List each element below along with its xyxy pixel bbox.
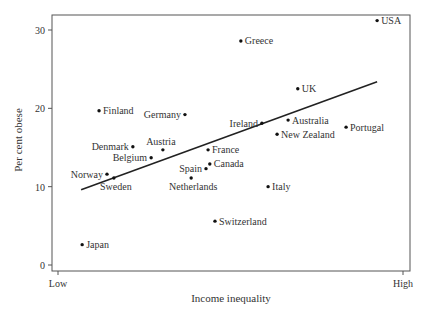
point-label: Germany <box>144 109 181 120</box>
point-label: Canada <box>214 158 245 169</box>
point-marker <box>208 162 211 165</box>
point-marker <box>296 87 299 90</box>
point-marker <box>183 113 186 116</box>
point-label: UK <box>302 83 317 94</box>
point-label: France <box>212 144 240 155</box>
scatter-chart: 0102030 LowHigh USAGreeceUKFinlandGerman… <box>0 0 428 318</box>
point-label: Greece <box>245 35 274 46</box>
point-label: Sweden <box>100 181 132 192</box>
data-point-greece: Greece <box>239 35 274 46</box>
point-marker <box>239 39 242 42</box>
data-point-new-zealand: New Zealand <box>275 129 334 140</box>
y-axis-title: Per cent obese <box>12 108 24 172</box>
point-marker <box>149 156 152 159</box>
point-marker <box>112 176 115 179</box>
data-point-usa: USA <box>375 15 401 26</box>
data-point-netherlands: Netherlands <box>169 176 217 192</box>
data-point-germany: Germany <box>144 109 187 120</box>
point-label: Japan <box>86 239 109 250</box>
point-marker <box>80 243 83 246</box>
point-label: USA <box>381 15 402 26</box>
point-label: Portugal <box>350 122 384 133</box>
y-tick-label: 0 <box>40 260 45 271</box>
point-marker <box>286 118 289 121</box>
point-label: Italy <box>272 181 290 192</box>
point-marker <box>213 219 216 222</box>
point-marker <box>344 125 347 128</box>
data-point-italy: Italy <box>266 181 290 192</box>
data-point-canada: Canada <box>208 158 244 169</box>
x-axis: LowHigh <box>49 271 413 289</box>
y-tick-label: 10 <box>35 182 45 193</box>
point-label: Ireland <box>230 118 258 129</box>
data-point-finland: Finland <box>97 105 133 116</box>
x-axis-title: Income inequality <box>191 292 271 304</box>
x-tick-label: High <box>393 278 413 289</box>
point-marker <box>206 148 209 151</box>
point-marker <box>189 176 192 179</box>
y-tick-label: 20 <box>35 103 45 114</box>
point-marker <box>266 185 269 188</box>
point-marker <box>375 19 378 22</box>
data-point-sweden: Sweden <box>100 176 132 192</box>
point-label: Denmark <box>92 141 129 152</box>
point-label: Spain <box>179 163 202 174</box>
point-marker <box>161 148 164 151</box>
point-label: Australia <box>292 115 329 126</box>
point-marker <box>275 132 278 135</box>
point-label: Netherlands <box>169 181 217 192</box>
point-label: Finland <box>103 105 134 116</box>
point-marker <box>105 172 108 175</box>
point-label: Austria <box>146 136 176 147</box>
data-point-uk: UK <box>296 83 317 94</box>
point-label: Belgium <box>113 152 148 163</box>
data-point-ireland: Ireland <box>230 118 264 129</box>
data-point-denmark: Denmark <box>92 141 135 152</box>
point-marker <box>260 122 263 125</box>
data-point-japan: Japan <box>80 239 108 250</box>
data-point-spain: Spain <box>179 163 207 174</box>
x-tick-label: Low <box>49 278 68 289</box>
data-point-france: France <box>206 144 239 155</box>
y-tick-label: 30 <box>35 25 45 36</box>
y-axis: 0102030 <box>35 25 52 271</box>
point-label: Norway <box>71 169 103 180</box>
data-point-belgium: Belgium <box>113 152 153 163</box>
data-point-portugal: Portugal <box>344 122 384 133</box>
point-label: Switzerland <box>219 216 267 227</box>
point-marker <box>131 145 134 148</box>
data-point-australia: Australia <box>286 115 329 126</box>
point-label: New Zealand <box>281 129 335 140</box>
data-point-switzerland: Switzerland <box>213 216 266 227</box>
point-marker <box>97 109 100 112</box>
data-point-norway: Norway <box>71 169 109 180</box>
data-point-austria: Austria <box>146 136 176 152</box>
point-marker <box>204 167 207 170</box>
